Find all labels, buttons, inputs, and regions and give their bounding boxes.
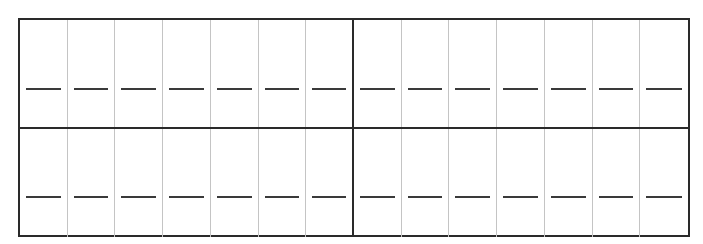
- answer-box[interactable]: [593, 20, 641, 129]
- answer-box[interactable]: [68, 128, 116, 237]
- row-divider: [20, 127, 688, 129]
- answer-blank-line: [408, 88, 443, 90]
- answer-box[interactable]: [163, 20, 211, 129]
- answer-box[interactable]: [354, 128, 402, 237]
- answer-blank-line: [408, 196, 443, 198]
- answer-box[interactable]: [449, 128, 497, 237]
- answer-blank-line: [360, 196, 395, 198]
- answer-box[interactable]: [402, 128, 450, 237]
- answer-blank-line: [455, 88, 490, 90]
- answer-box[interactable]: [306, 128, 354, 237]
- answer-blank-line: [217, 196, 252, 198]
- answer-box[interactable]: [545, 20, 593, 129]
- answer-box[interactable]: [545, 128, 593, 237]
- answer-blank-line: [503, 196, 538, 198]
- answer-blank-line: [74, 196, 109, 198]
- answer-blank-line: [169, 88, 204, 90]
- answer-box[interactable]: [211, 128, 259, 237]
- answer-blank-line: [74, 88, 109, 90]
- answer-box[interactable]: [593, 128, 641, 237]
- answer-blank-line: [599, 88, 634, 90]
- answer-box[interactable]: [68, 20, 116, 129]
- answer-box[interactable]: [259, 20, 307, 129]
- grid-row-1: [20, 20, 688, 129]
- answer-blank-line: [646, 196, 682, 198]
- answer-blank-line: [599, 196, 634, 198]
- answer-box[interactable]: [163, 128, 211, 237]
- answer-blank-line: [121, 196, 156, 198]
- answer-box[interactable]: [211, 20, 259, 129]
- answer-blank-line: [312, 196, 346, 198]
- answer-blank-line: [169, 196, 204, 198]
- answer-blank-line: [312, 88, 346, 90]
- answer-box[interactable]: [497, 128, 545, 237]
- answer-blank-line: [551, 196, 586, 198]
- answer-box[interactable]: [20, 20, 68, 129]
- answer-blank-line: [265, 196, 300, 198]
- answer-box[interactable]: [640, 128, 688, 237]
- answer-box[interactable]: [402, 20, 450, 129]
- answer-box[interactable]: [259, 128, 307, 237]
- answer-box[interactable]: [20, 128, 68, 237]
- answer-box[interactable]: [354, 20, 402, 129]
- answer-box[interactable]: [449, 20, 497, 129]
- grid-row-2: [20, 128, 688, 237]
- answer-blank-line: [360, 88, 395, 90]
- answer-blank-line: [265, 88, 300, 90]
- answer-box[interactable]: [640, 20, 688, 129]
- answer-box[interactable]: [115, 128, 163, 237]
- answer-blank-line: [121, 88, 156, 90]
- answer-box[interactable]: [306, 20, 354, 129]
- answer-blank-line: [646, 88, 682, 90]
- answer-blank-line: [217, 88, 252, 90]
- writing-grid: [18, 18, 690, 237]
- answer-box[interactable]: [115, 20, 163, 129]
- answer-blank-line: [551, 88, 586, 90]
- answer-blank-line: [455, 196, 490, 198]
- answer-blank-line: [26, 196, 61, 198]
- answer-box[interactable]: [497, 20, 545, 129]
- answer-blank-line: [503, 88, 538, 90]
- answer-blank-line: [26, 88, 61, 90]
